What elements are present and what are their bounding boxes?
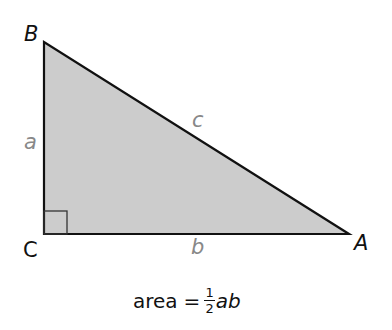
formula-lhs: area bbox=[133, 289, 178, 313]
side-label-a: a bbox=[24, 132, 37, 153]
fraction-denominator: 2 bbox=[205, 301, 213, 315]
vertex-label-b: B bbox=[24, 24, 38, 45]
triangle-figure bbox=[0, 0, 392, 330]
formula-variables: ab bbox=[216, 289, 241, 313]
fraction-numerator: 1 bbox=[204, 286, 214, 301]
formula-equals: = bbox=[184, 289, 201, 313]
area-formula: area = 1 2 ab bbox=[133, 286, 241, 315]
vertex-label-a: A bbox=[354, 233, 368, 254]
fraction-one-half: 1 2 bbox=[204, 286, 214, 315]
side-label-b: b bbox=[191, 237, 204, 258]
triangle bbox=[44, 42, 349, 234]
vertex-label-c: C bbox=[23, 240, 38, 261]
side-label-c: c bbox=[192, 110, 204, 131]
